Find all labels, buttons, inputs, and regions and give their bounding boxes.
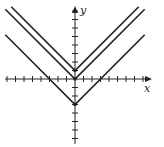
y-axis-label: y (80, 5, 86, 16)
vertex-point-2 (73, 103, 77, 107)
absolute-value-graph (0, 0, 164, 147)
vertex-point-1 (73, 77, 77, 81)
y-axis-arrow-icon (72, 6, 78, 13)
vertex-point-0 (73, 69, 77, 73)
x-axis-label: x (144, 83, 150, 94)
